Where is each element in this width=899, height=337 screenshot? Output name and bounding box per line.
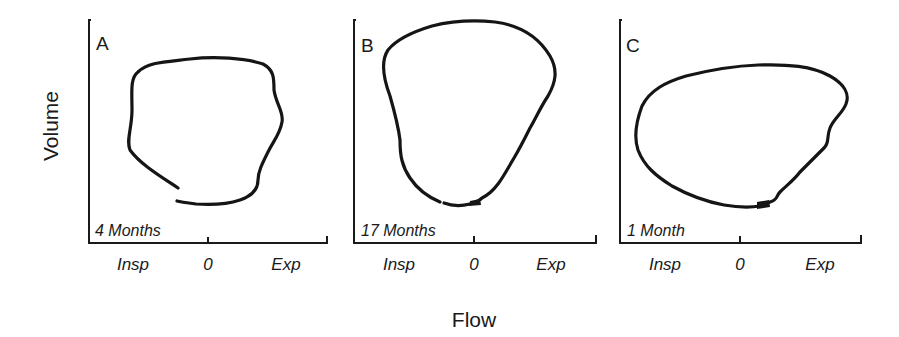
x-axis-label: Flow: [452, 308, 497, 331]
panel-a-loop: [129, 58, 283, 205]
panel-b-loop-thick-end: [469, 199, 481, 206]
panel-b: B 17 Months Insp 0 Exp: [354, 20, 596, 274]
panel-b-loop: [384, 21, 556, 205]
panel-b-tick-insp: Insp: [383, 255, 415, 274]
panel-b-letter: B: [361, 35, 374, 56]
panel-c-tick-insp: Insp: [649, 255, 681, 274]
panel-c-loop: [636, 65, 847, 207]
panel-b-age: 17 Months: [361, 222, 436, 239]
panel-a: A 4 Months Insp 0 Exp: [89, 20, 327, 274]
panel-c-tick-exp: Exp: [805, 255, 834, 274]
panel-a-tick-exp: Exp: [271, 255, 300, 274]
panel-a-tick-insp: Insp: [117, 255, 149, 274]
panel-b-tick-zero: 0: [469, 255, 479, 274]
panel-b-axes: [354, 20, 596, 243]
panel-a-axes: [89, 20, 327, 243]
y-axis-label: Volume: [39, 91, 62, 161]
panel-a-letter: A: [96, 33, 109, 54]
panel-c-axes: [620, 20, 861, 243]
panel-c-loop-thick-end: [757, 200, 770, 209]
panel-a-age: 4 Months: [95, 222, 161, 239]
panel-c-tick-zero: 0: [735, 255, 745, 274]
figure-canvas: Volume A 4 Months Insp 0 Exp B 17 Months…: [0, 0, 899, 337]
panel-c-age: 1 Month: [627, 222, 685, 239]
panel-b-tick-exp: Exp: [536, 255, 565, 274]
panel-c: C 1 Month Insp 0 Exp: [620, 20, 861, 274]
panel-a-tick-zero: 0: [203, 255, 213, 274]
panel-c-letter: C: [626, 35, 640, 56]
